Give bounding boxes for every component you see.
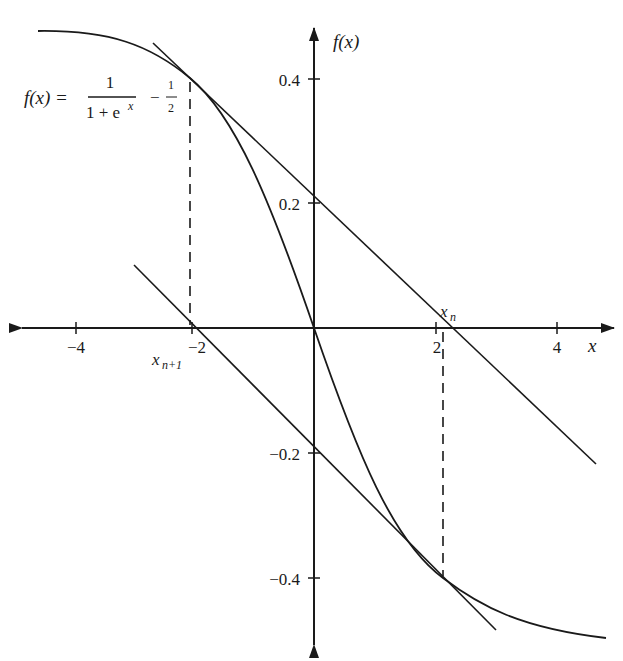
svg-text:x: x: [151, 350, 160, 369]
y-axis-label: f(x): [333, 31, 359, 53]
svg-text:n: n: [450, 310, 456, 324]
x-tick-label: 2: [433, 338, 442, 357]
x-tick-label: −4: [67, 338, 86, 357]
svg-text:x: x: [127, 99, 134, 113]
svg-text:x: x: [439, 302, 448, 321]
svg-text:2: 2: [168, 101, 174, 115]
y-tick-label: −0.4: [269, 570, 300, 589]
tangent-line-upper: [153, 43, 596, 464]
xn1-annotation: x n+1: [151, 350, 182, 372]
svg-text:−: −: [150, 88, 160, 107]
svg-text:n+1: n+1: [162, 358, 182, 372]
newton-method-diagram: f(x) x 0.4 0.2 −0.2 −0.4 −4 −2 2 4 x n x…: [0, 0, 623, 661]
svg-text:1: 1: [168, 78, 174, 92]
y-tick-label: 0.4: [279, 71, 301, 90]
svg-text:1 + e: 1 + e: [86, 103, 120, 122]
y-tick-label: 0.2: [279, 195, 300, 214]
svg-text:f(x) =: f(x) =: [24, 87, 68, 109]
y-tick-label: −0.2: [269, 445, 300, 464]
svg-text:1: 1: [106, 73, 115, 92]
x-axis-label: x: [587, 335, 597, 356]
function-curve: [38, 31, 606, 638]
xn-annotation: x n: [439, 302, 456, 324]
function-formula: f(x) = 1 1 + e x − 1 2: [24, 73, 177, 122]
x-tick-label: 4: [553, 338, 562, 357]
x-tick-label: −2: [188, 338, 206, 357]
